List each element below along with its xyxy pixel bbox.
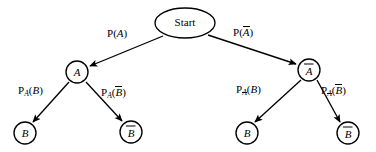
edge-label-p-a-of-b: PA(B) (18, 85, 43, 96)
edge-label-p-a-not: P(A) (233, 26, 253, 38)
node-b-not-left-label: B (128, 127, 135, 139)
probability-tree-diagram: Start A A B B B B P(A) P(A) PA(B) PA(B) (0, 0, 376, 152)
edge-start-to-a-not (208, 35, 296, 64)
edge-a-not-to-b (255, 80, 301, 122)
node-b-right-label: B (244, 127, 251, 139)
edge-label-p-a-not-of-b-not: PA(B) (321, 84, 346, 96)
tree-graphic: Start A A B B B B (0, 0, 376, 152)
node-b-not-right-label: B (345, 128, 352, 140)
node-b-left-label: B (22, 127, 29, 139)
edge-start-to-a (90, 36, 163, 66)
node-a-not-label: A (305, 65, 313, 77)
edge-label-p-a: P(A) (107, 28, 127, 39)
edge-label-p-a-arg: A (117, 27, 124, 39)
edge-label-p-a-not-arg: A (243, 26, 250, 38)
node-start-label: Start (175, 16, 196, 28)
edge-label-p-a-of-b-not: PA(B) (101, 86, 126, 98)
edge-label-p-a-not-of-b: PA(B) (236, 84, 261, 95)
node-a-label: A (73, 66, 81, 78)
